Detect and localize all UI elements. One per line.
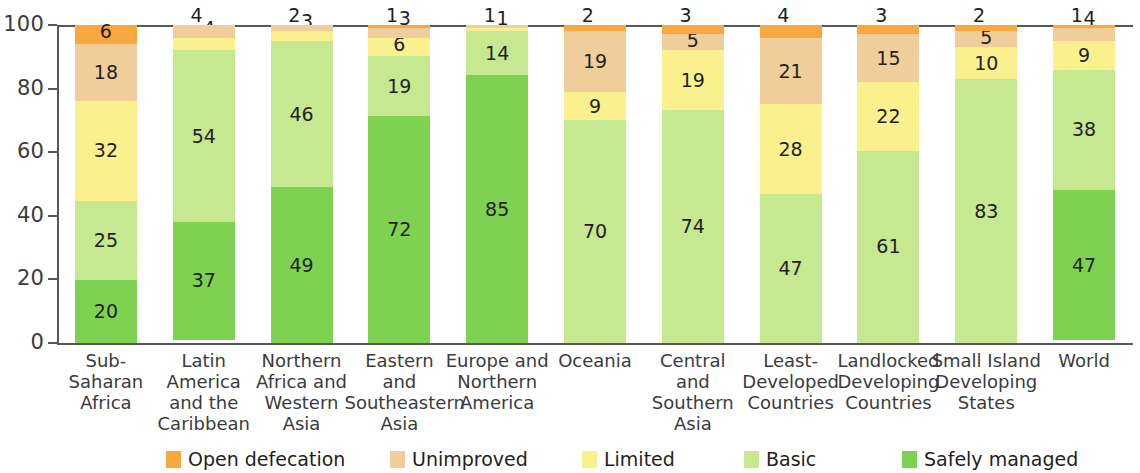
legend-color-swatch <box>390 451 405 468</box>
bar-segment-value: 19 <box>583 52 607 71</box>
bar-segment[interactable]: 21 <box>760 38 822 105</box>
bars-layer: 6183225204454372346491361972111485219970… <box>57 25 1133 343</box>
bar-group[interactable]: 4212847 <box>760 25 822 343</box>
y-axis-tick-label: 20 <box>17 265 44 291</box>
bar-segment[interactable]: 32 <box>75 101 137 202</box>
bar-group[interactable]: 1361972 <box>368 25 430 343</box>
x-axis-label-line: Eastern <box>344 350 454 371</box>
bar-segment[interactable]: 2 <box>955 25 1017 31</box>
x-axis-label-line: America <box>442 392 552 413</box>
x-axis-label-line: World <box>1029 350 1139 371</box>
bar-group[interactable]: 445437 <box>173 25 235 343</box>
bar-segment[interactable]: 19 <box>662 50 724 110</box>
y-axis-tick-label: 40 <box>17 202 44 228</box>
legend-item[interactable]: Safely managed <box>902 449 1078 470</box>
bar-segment[interactable]: 83 <box>955 79 1017 343</box>
bar-segment[interactable]: 47 <box>1053 190 1115 339</box>
x-axis-category-label: Centraland SouthernAsia <box>638 350 748 434</box>
bar-group[interactable]: 111485 <box>466 25 528 343</box>
y-axis: 100806040200 <box>0 0 57 360</box>
y-axis-tick-mark <box>48 278 57 280</box>
y-axis-tick-mark <box>48 342 57 344</box>
x-axis-label-line: and <box>344 371 454 392</box>
bar-segment[interactable]: 4 <box>173 38 235 51</box>
bar-segment[interactable]: 4 <box>173 25 235 38</box>
y-axis-tick-mark <box>48 24 57 26</box>
bar-segment[interactable]: 10 <box>955 47 1017 79</box>
bar-group[interactable]: 618322520 <box>75 25 137 343</box>
bar-segment[interactable]: 61 <box>857 151 919 343</box>
bar-segment[interactable]: 4 <box>760 25 822 38</box>
bar-segment[interactable]: 2 <box>564 25 626 31</box>
bar-segment[interactable]: 9 <box>1053 41 1115 70</box>
bar-segment-value: 18 <box>94 63 118 82</box>
bar-segment[interactable]: 2 <box>271 25 333 31</box>
bar-segment[interactable]: 6 <box>368 38 430 57</box>
x-axis-label-line: Latin <box>149 350 259 371</box>
bar-segment[interactable]: 54 <box>173 50 235 222</box>
bar-segment[interactable]: 6 <box>75 25 137 44</box>
bar-segment[interactable]: 49 <box>271 187 333 343</box>
bar-segment[interactable]: 19 <box>368 56 430 116</box>
bar-group[interactable]: 234649 <box>271 25 333 343</box>
bar-segment[interactable]: 1 <box>1053 25 1115 28</box>
bar-segment[interactable]: 46 <box>271 41 333 187</box>
x-axis-label-line: Landlocked <box>834 350 944 371</box>
bar-segment[interactable]: 20 <box>75 280 137 343</box>
bar-segment[interactable]: 37 <box>173 222 235 340</box>
x-axis-label-line: Asia <box>344 413 454 434</box>
stacked-bar-chart: 100806040200 618322520445437234649136197… <box>0 0 1140 473</box>
bar-group[interactable]: 351974 <box>662 25 724 343</box>
legend-item[interactable]: Limited <box>582 449 675 470</box>
x-axis-category-label: NorthernAfrica andWesternAsia <box>247 350 357 434</box>
legend-item[interactable]: Unimproved <box>390 449 528 470</box>
bar-segment[interactable]: 14 <box>466 31 528 75</box>
bar-segment[interactable]: 74 <box>662 110 724 343</box>
y-axis-tick-label: 60 <box>17 138 44 164</box>
bar-segment-value: 70 <box>583 222 607 241</box>
bar-segment[interactable]: 3 <box>271 31 333 41</box>
bar-segment[interactable]: 85 <box>466 75 528 343</box>
bar-segment-value: 46 <box>289 105 313 124</box>
bar-segment[interactable]: 18 <box>75 44 137 101</box>
bar-segment-value: 9 <box>589 97 601 116</box>
bar-group[interactable]: 219970 <box>564 25 626 343</box>
bar-segment[interactable]: 3 <box>368 28 430 37</box>
x-axis-label-line: Caribbean <box>149 413 259 434</box>
bar-segment[interactable]: 47 <box>760 194 822 343</box>
bar-segment[interactable]: 25 <box>75 201 137 280</box>
bar-segment[interactable]: 5 <box>955 31 1017 47</box>
bar-segment-value: 2 <box>582 6 594 25</box>
bar-segment[interactable]: 3 <box>662 25 724 34</box>
bar-segment[interactable]: 5 <box>662 34 724 50</box>
x-axis-label-line: Northern <box>247 350 357 371</box>
bar-group[interactable]: 3152261 <box>857 25 919 343</box>
bar-segment[interactable]: 19 <box>564 31 626 91</box>
bar-segment[interactable]: 28 <box>760 104 822 193</box>
x-axis-label-line: Developing <box>834 371 944 392</box>
bar-segment-value: 49 <box>289 256 313 275</box>
legend-label: Unimproved <box>412 449 528 470</box>
bar-segment[interactable]: 1 <box>368 25 430 28</box>
bar-group[interactable]: 1493847 <box>1053 25 1115 343</box>
bar-segment-value: 22 <box>876 107 900 126</box>
bar-segment[interactable]: 38 <box>1053 70 1115 191</box>
legend-label: Basic <box>766 449 816 470</box>
x-axis-category-label: LandlockedDevelopingCountries <box>834 350 944 413</box>
bar-segment[interactable]: 72 <box>368 116 430 343</box>
x-axis-category-label: LatinAmericaand theCaribbean <box>149 350 259 434</box>
bar-segment[interactable]: 15 <box>857 34 919 81</box>
bar-segment[interactable]: 9 <box>564 92 626 121</box>
bar-group[interactable]: 251083 <box>955 25 1017 343</box>
bar-segment[interactable]: 4 <box>1053 28 1115 41</box>
bar-segment[interactable]: 70 <box>564 120 626 343</box>
bar-segment[interactable]: 3 <box>857 25 919 34</box>
legend-item[interactable]: Open defecation <box>166 449 345 470</box>
x-axis-category-label: World <box>1029 350 1139 371</box>
bar-segment[interactable]: 22 <box>857 82 919 151</box>
bar-segment[interactable]: 1 <box>466 25 528 28</box>
bar-segment-value: 85 <box>485 200 509 219</box>
bar-segment[interactable]: 1 <box>466 28 528 31</box>
legend-item[interactable]: Basic <box>744 449 816 470</box>
bar-segment-value: 47 <box>1072 256 1096 275</box>
